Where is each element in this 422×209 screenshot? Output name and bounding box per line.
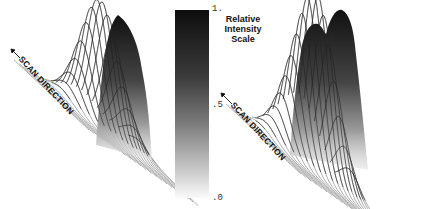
left-scan-arrow-icon [11, 49, 20, 58]
scale-title: Relative Intensity Scale [216, 14, 270, 44]
left-surface-plot [14, 0, 198, 206]
scale-title-line: Relative [216, 14, 270, 24]
scale-tick-min: .0 [212, 193, 223, 203]
scale-title-line: Intensity [216, 24, 270, 34]
intensity-scale-bar [175, 10, 209, 198]
scale-tick-max: 1. [212, 4, 223, 14]
scale-tick-mid: .5 [212, 100, 223, 110]
scale-title-line: Scale [216, 34, 270, 44]
